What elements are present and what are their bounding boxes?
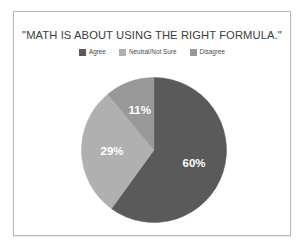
pie-chart-svg: 60% 29% 11% [81,77,227,223]
chart-title: "MATH IS ABOUT USING THE RIGHT FORMULA." [14,29,290,41]
chart-container: "MATH IS ABOUT USING THE RIGHT FORMULA."… [13,11,291,236]
legend-item-agree[interactable]: Agree [79,49,106,56]
pie-slice-disagree[interactable] [108,78,154,151]
legend-label-agree: Agree [89,49,106,55]
legend-swatch-icon [190,49,197,56]
pie-chart-area: 60% 29% 11% [14,12,292,237]
legend-swatch-icon [79,49,86,56]
page-canvas: "MATH IS ABOUT USING THE RIGHT FORMULA."… [0,0,304,248]
legend-label-neutral: Neutral/Not Sure [129,49,177,55]
chart-legend: Agree Neutral/Not Sure Disagree [14,49,290,56]
slice-label-agree: 60% [182,157,205,169]
pie-slice-neutral[interactable] [81,94,154,209]
legend-item-neutral[interactable]: Neutral/Not Sure [119,49,177,56]
legend-swatch-icon [119,49,126,56]
pie-slice-agree[interactable] [111,78,226,223]
slice-label-neutral: 29% [100,145,123,157]
legend-item-disagree[interactable]: Disagree [190,49,226,56]
legend-label-disagree: Disagree [200,49,226,55]
slice-label-disagree: 11% [129,104,151,116]
